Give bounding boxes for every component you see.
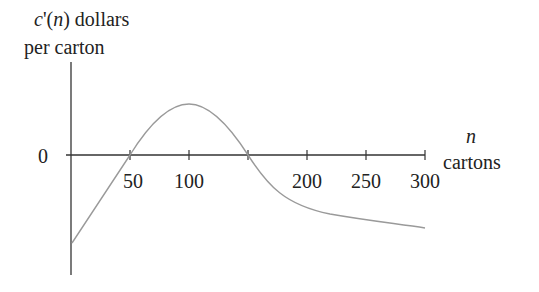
plot-area — [0, 0, 539, 292]
derivative-curve — [72, 104, 425, 243]
